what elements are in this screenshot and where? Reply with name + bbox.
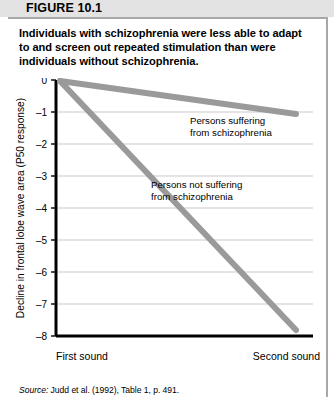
chart-gridlines [57,112,313,304]
series-line-suffering [60,81,296,114]
y-tick-label-0: 0 [41,78,47,86]
x-tick-label-first-sound: First sound [56,350,108,363]
header-divider-rule [8,17,326,19]
y-tick-label-6: –6 [36,267,48,278]
source-text: Judd et al. (1992), Table 1, p. 491. [48,385,179,395]
source-note: Source: Judd et al. (1992), Table 1, p. … [19,385,179,395]
annotation-not-suffering-line1: Persons not suffering [151,179,242,190]
figure-caption: Individuals with schizophrenia were less… [19,26,315,69]
figure-number-label: FIGURE 10.1 [26,1,102,15]
chart-container: 0 –1 –2 –3 –4 –5 –6 –7 –8 Decline in fro… [0,78,334,348]
y-tick-label-7: –7 [36,299,48,310]
y-tick-label-8: –8 [36,331,48,342]
y-tick-label-5: –5 [36,235,48,246]
line-chart: 0 –1 –2 –3 –4 –5 –6 –7 –8 Decline in fro… [0,78,334,348]
y-tick-label-3: –3 [36,171,48,182]
annotation-suffering-line1: Persons suffering [190,115,265,126]
y-tick-label-4: –4 [36,203,48,214]
y-axis-title: Decline in frontal lobe wave area (P50 r… [15,98,26,318]
x-tick-label-second-sound: Second sound [253,350,320,363]
annotation-suffering-line2: from schizophrenia [190,127,272,138]
source-prefix: Source: [19,385,48,395]
annotation-not-suffering-line2: from schizophrenia [151,191,233,202]
x-axis-labels: First sound Second sound [0,350,334,380]
y-tick-label-1: –1 [36,107,48,118]
y-tick-label-2: –2 [36,139,48,150]
